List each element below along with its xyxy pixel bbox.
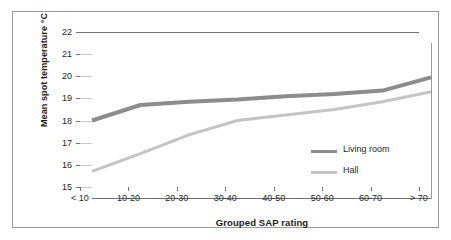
y-tick-mark [76,32,80,33]
chart-figure: Mean spot temperature °C 151617181920212… [0,0,451,240]
x-tick-mark [322,187,323,191]
series-line [92,77,431,120]
figure-frame: Mean spot temperature °C 151617181920212… [12,11,439,228]
legend-label: Hall [343,165,359,176]
y-tick-label: 15 [50,183,72,192]
gridline [80,32,419,33]
y-tick-mark [76,165,80,166]
x-tick-mark [371,187,372,191]
y-tick-label: 16 [50,161,72,170]
x-tick-label: 60-70 [347,193,395,203]
x-tick-label: 20-30 [153,193,201,203]
plot-right-border [431,43,432,199]
y-tick-mark [76,76,80,77]
x-tick-label: < 10 [56,193,104,203]
legend-label: Living room [343,144,390,155]
x-tick-label: 10-20 [104,193,152,203]
legend-swatch [311,171,337,174]
legend-item[interactable]: Living room [311,142,431,163]
x-tick-mark [225,187,226,191]
x-tick-mark [128,187,129,191]
y-tick-mark [76,54,80,55]
x-tick-label: 50-60 [298,193,346,203]
legend-swatch [311,150,337,153]
chart-legend: Living roomHall [311,142,431,184]
y-tick-mark [76,98,80,99]
x-tick-label: 30-40 [201,193,249,203]
y-tick-label: 18 [50,117,72,126]
y-tick-label: 19 [50,94,72,103]
x-axis-title: Grouped SAP rating [92,217,432,228]
x-tick-mark [177,187,178,191]
x-tick-mark [80,187,81,191]
x-tick-mark [419,187,420,191]
x-tick-label: > 70 [395,193,443,203]
x-tick-mark [274,187,275,191]
y-tick-label: 21 [50,50,72,59]
legend-item[interactable]: Hall [311,163,431,184]
y-tick-label: 22 [50,28,72,37]
y-tick-mark [76,121,80,122]
x-tick-label: 40-50 [250,193,298,203]
y-tick-label: 20 [50,72,72,81]
y-tick-label: 17 [50,139,72,148]
y-tick-mark [76,143,80,144]
